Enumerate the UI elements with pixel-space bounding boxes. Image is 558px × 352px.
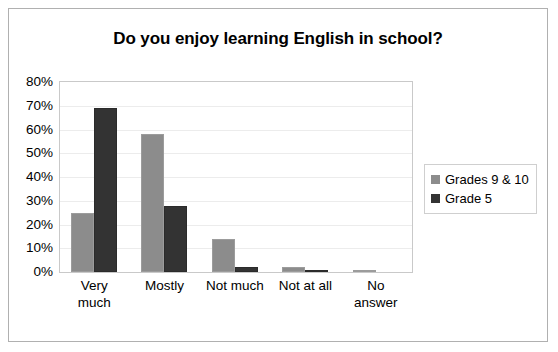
- chart-legend: Grades 9 & 10Grade 5: [424, 164, 537, 214]
- chart-frame: Do you enjoy learning English in school?…: [8, 8, 548, 342]
- y-axis: 80%70%60%50%40%30%20%10%0%: [9, 81, 53, 271]
- bar-group: [60, 82, 130, 272]
- y-axis-tick-label: 20%: [9, 216, 53, 231]
- bar: [212, 239, 235, 272]
- x-axis-tick-label-line: No: [341, 277, 411, 294]
- y-axis-tick-label: 50%: [9, 145, 53, 160]
- legend-swatch-icon: [431, 194, 440, 203]
- bar: [141, 134, 164, 272]
- x-axis-tick-label: Not much: [200, 277, 270, 294]
- bar: [71, 213, 94, 272]
- bar-group: [201, 82, 271, 272]
- x-axis-tick-label-line: answer: [341, 294, 411, 311]
- legend-item: Grade 5: [431, 189, 529, 208]
- legend-item-label: Grade 5: [445, 191, 492, 206]
- x-axis-tick-label-line: Mostly: [129, 277, 199, 294]
- y-axis-tick-label: 40%: [9, 169, 53, 184]
- bar: [164, 206, 187, 273]
- bar: [282, 267, 305, 272]
- legend-item-label: Grades 9 & 10: [445, 172, 529, 187]
- bar-group: [130, 82, 200, 272]
- x-axis-tick-label: Mostly: [129, 277, 199, 294]
- bar: [235, 267, 258, 272]
- bar-group: [271, 82, 341, 272]
- y-axis-tick-label: 0%: [9, 264, 53, 279]
- y-axis-tick-label: 60%: [9, 121, 53, 136]
- x-axis-tick-label-line: Not at all: [270, 277, 340, 294]
- bar: [94, 108, 117, 272]
- chart-title: Do you enjoy learning English in school?: [9, 29, 547, 49]
- x-axis-tick-label: Noanswer: [341, 277, 411, 311]
- x-axis: VerymuchMostlyNot muchNot at allNoanswer: [59, 277, 411, 339]
- plot-area: [59, 81, 413, 273]
- x-axis-tick-label-line: much: [59, 294, 129, 311]
- bar: [305, 270, 328, 272]
- y-axis-tick-label: 30%: [9, 192, 53, 207]
- legend-swatch-icon: [431, 175, 440, 184]
- y-axis-tick-label: 70%: [9, 97, 53, 112]
- x-axis-tick-label: Not at all: [270, 277, 340, 294]
- x-axis-tick-label: Verymuch: [59, 277, 129, 311]
- x-axis-tick-label-line: Not much: [200, 277, 270, 294]
- bar: [353, 270, 376, 272]
- y-axis-tick-label: 10%: [9, 240, 53, 255]
- y-axis-tick-label: 80%: [9, 74, 53, 89]
- legend-item: Grades 9 & 10: [431, 170, 529, 189]
- bar-group: [342, 82, 412, 272]
- x-axis-tick-label-line: Very: [59, 277, 129, 294]
